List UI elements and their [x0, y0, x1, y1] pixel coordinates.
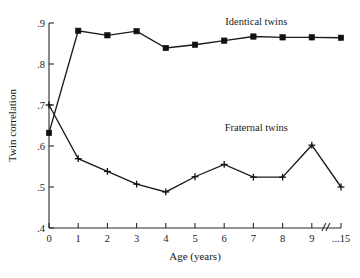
- y-axis-title: Twin correlation: [6, 89, 18, 162]
- x-tick-label: 9: [309, 233, 314, 244]
- x-tick-label: ...15: [332, 233, 350, 244]
- x-tick-label: 3: [134, 233, 139, 244]
- data-point-identical: [163, 45, 168, 50]
- data-point-identical: [76, 28, 81, 33]
- x-tick-label: 0: [46, 233, 51, 244]
- data-point-identical: [192, 42, 197, 47]
- y-tick-label: .4: [37, 223, 46, 234]
- x-tick-label: 4: [163, 233, 169, 244]
- data-point-identical: [309, 35, 314, 40]
- axis-break-slash-2: [326, 223, 330, 231]
- data-point-identical: [251, 34, 256, 39]
- x-tick-label: 5: [192, 233, 197, 244]
- data-point-identical: [280, 35, 285, 40]
- data-point-identical: [134, 29, 139, 34]
- data-point-identical: [338, 35, 343, 40]
- data-point-identical: [222, 38, 227, 43]
- y-tick-label: .8: [37, 59, 45, 70]
- x-tick-label: 2: [105, 233, 110, 244]
- chart-canvas: .4.5.6.7.8.90123456789...15Age (years)Tw…: [0, 0, 360, 278]
- x-tick-label: 1: [76, 233, 81, 244]
- data-point-identical: [46, 130, 51, 135]
- y-tick-label: .5: [37, 182, 45, 193]
- x-tick-label: 7: [251, 233, 256, 244]
- series-annotation-identical-twins: Identical twins: [225, 16, 287, 27]
- twin-correlation-chart: .4.5.6.7.8.90123456789...15Age (years)Tw…: [0, 0, 360, 278]
- y-tick-label: .9: [37, 18, 45, 29]
- data-point-identical: [105, 33, 110, 38]
- x-axis-title: Age (years): [169, 250, 221, 263]
- x-tick-label: 6: [222, 233, 227, 244]
- series-annotation-fraternal-twins: Fraternal twins: [225, 122, 288, 133]
- axis-break-slash-1: [322, 223, 326, 231]
- y-tick-label: .6: [37, 141, 45, 152]
- x-tick-label: 8: [280, 233, 285, 244]
- y-tick-label: .7: [37, 100, 45, 111]
